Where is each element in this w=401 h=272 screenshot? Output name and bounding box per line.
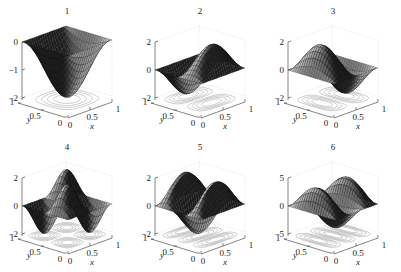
y-tick-label: 0.5 — [295, 111, 307, 121]
z-tick-label: 2 — [14, 173, 19, 183]
x-axis-label: x — [89, 121, 94, 131]
y-axis-label: y — [26, 114, 31, 124]
z-tick-label: 2 — [147, 173, 152, 183]
y-tick-label: 1 — [276, 233, 281, 243]
z-tick-label: 0 — [280, 201, 285, 211]
y-tick-label: 0.5 — [162, 247, 174, 257]
subplot-title: 6 — [331, 142, 336, 152]
z-tick-label: 2 — [280, 37, 285, 47]
subplot-1: 10−1−200.5100.51xy — [0, 0, 134, 136]
x-tick-label: 0 — [201, 120, 206, 130]
z-tick-label: 0 — [147, 201, 152, 211]
x-tick-label: 0 — [201, 256, 206, 266]
surface-plot-4: 420−200.5100.51xy — [0, 136, 134, 272]
surface-plot-2: 220−200.5100.51xy — [133, 0, 267, 136]
surface-plot-3: 320−200.5100.51xy — [266, 0, 400, 136]
x-tick-label: 0 — [334, 120, 339, 130]
x-tick-label: 1 — [382, 104, 387, 114]
z-tick-label: 0 — [147, 65, 152, 75]
y-axis-label: y — [159, 250, 164, 260]
y-tick-label: 0 — [58, 254, 63, 264]
x-tick-label: 1 — [382, 240, 387, 250]
subplot-2: 220−200.5100.51xy — [133, 0, 267, 136]
subplot-6: 650−500.5100.51xy — [266, 136, 400, 272]
surface-plot-1: 10−1−200.5100.51xy — [0, 0, 134, 136]
surface-plot-6: 650−500.5100.51xy — [266, 136, 400, 272]
y-tick-label: 0.5 — [29, 247, 41, 257]
y-tick-label: 0 — [324, 254, 329, 264]
y-axis-label: y — [292, 250, 297, 260]
subplot-title: 5 — [198, 142, 203, 152]
x-axis-label: x — [222, 257, 227, 267]
x-tick-label: 1 — [249, 240, 254, 250]
subplot-title: 2 — [198, 6, 203, 16]
surface-mesh — [22, 26, 112, 97]
y-tick-label: 0 — [191, 118, 196, 128]
subplot-title: 3 — [331, 6, 336, 16]
figure: 10−1−200.5100.51xy 220−200.5100.51xy 320… — [0, 0, 401, 272]
x-axis-label: x — [355, 257, 360, 267]
subplot-4: 420−200.5100.51xy — [0, 136, 134, 272]
x-tick-label: 0 — [68, 120, 73, 130]
x-tick-label: 0 — [68, 256, 73, 266]
surface-plot-5: 520−200.5100.51xy — [133, 136, 267, 272]
y-tick-label: 0.5 — [295, 247, 307, 257]
z-tick-label: 0 — [280, 65, 285, 75]
y-tick-label: 0 — [324, 118, 329, 128]
z-tick-label: −1 — [8, 65, 18, 75]
y-tick-label: 1 — [276, 97, 281, 107]
y-tick-label: 0.5 — [29, 111, 41, 121]
x-tick-label: 1 — [116, 240, 121, 250]
z-tick-label: 0 — [14, 37, 19, 47]
z-tick-label: 5 — [280, 173, 285, 183]
surface-mesh — [22, 170, 112, 234]
x-tick-label: 1 — [116, 104, 121, 114]
subplot-5: 520−200.5100.51xy — [133, 136, 267, 272]
y-tick-label: 1 — [143, 233, 148, 243]
y-tick-label: 0 — [191, 254, 196, 264]
y-tick-label: 1 — [10, 97, 15, 107]
y-axis-label: y — [159, 114, 164, 124]
z-tick-label: 2 — [147, 37, 152, 47]
x-tick-label: 0 — [334, 256, 339, 266]
y-tick-label: 0 — [58, 118, 63, 128]
y-tick-label: 0.5 — [162, 111, 174, 121]
x-axis-label: x — [222, 121, 227, 131]
surface-mesh — [288, 45, 378, 94]
x-axis-label: x — [355, 121, 360, 131]
x-tick-label: 1 — [249, 104, 254, 114]
subplot-title: 1 — [65, 6, 70, 16]
subplot-title: 4 — [65, 142, 70, 152]
z-tick-label: 0 — [14, 201, 19, 211]
y-tick-label: 1 — [10, 233, 15, 243]
y-axis-label: y — [26, 250, 31, 260]
x-axis-label: x — [89, 257, 94, 267]
surface-mesh — [155, 172, 245, 234]
y-tick-label: 1 — [143, 97, 148, 107]
surface-mesh — [155, 44, 245, 94]
surface-mesh — [288, 177, 378, 228]
y-axis-label: y — [292, 114, 297, 124]
subplot-3: 320−200.5100.51xy — [266, 0, 400, 136]
